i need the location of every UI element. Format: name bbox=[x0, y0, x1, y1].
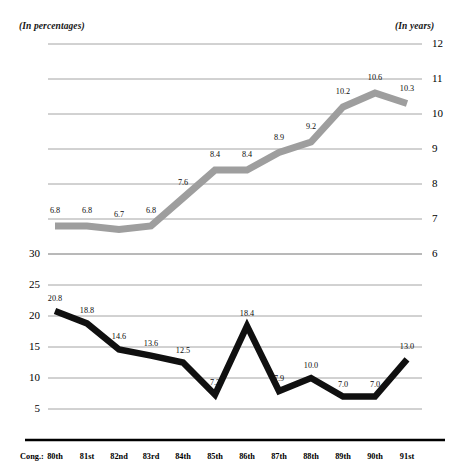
years-series-line bbox=[55, 93, 407, 230]
x-tick-90th: 90th bbox=[367, 452, 383, 461]
data-label-years-88th: 9.2 bbox=[306, 123, 316, 131]
data-label-percent-90th: 7.0 bbox=[370, 381, 380, 389]
chart-figure: (In percentages) (In years) 1211109876 3… bbox=[0, 0, 462, 469]
x-tick-81st: 81st bbox=[80, 452, 94, 461]
left-axis-tick-5: 5 bbox=[14, 403, 40, 414]
data-label-percent-81st: 18.8 bbox=[80, 307, 94, 315]
lower-gridlines bbox=[48, 254, 422, 409]
data-label-percent-84th: 12.5 bbox=[176, 347, 190, 355]
x-tick-89th: 89th bbox=[335, 452, 351, 461]
data-label-years-87th: 8.9 bbox=[274, 134, 284, 142]
data-label-percent-83rd: 13.6 bbox=[144, 340, 158, 348]
percentages-series-line bbox=[55, 311, 407, 397]
right-axis-tick-11: 11 bbox=[432, 73, 443, 84]
left-axis-tick-10: 10 bbox=[14, 372, 40, 383]
x-tick-86th: 86th bbox=[239, 452, 255, 461]
data-label-years-89th: 10.2 bbox=[336, 88, 350, 96]
x-tick-82nd: 82nd bbox=[110, 452, 128, 461]
right-axis-tick-12: 12 bbox=[432, 38, 443, 49]
x-tick-85th: 85th bbox=[207, 452, 223, 461]
data-label-years-83rd: 6.8 bbox=[146, 207, 156, 215]
right-axis-tick-10: 10 bbox=[432, 108, 443, 119]
right-axis-tick-9: 9 bbox=[432, 143, 438, 154]
data-label-percent-89th: 7.0 bbox=[338, 381, 348, 389]
x-tick-84th: 84th bbox=[175, 452, 191, 461]
x-axis-prefix-label: Cong.: bbox=[20, 452, 44, 461]
right-axis-tick-7: 7 bbox=[432, 213, 438, 224]
x-tick-88th: 88th bbox=[303, 452, 319, 461]
data-label-percent-87th: 7.9 bbox=[274, 375, 284, 383]
data-label-years-91st: 10.3 bbox=[400, 85, 414, 93]
x-tick-91st: 91st bbox=[400, 452, 414, 461]
data-label-years-84th: 7.6 bbox=[178, 179, 188, 187]
left-axis-tick-25: 25 bbox=[14, 279, 40, 290]
data-label-percent-80th: 20.8 bbox=[48, 295, 62, 303]
data-label-years-82nd: 6.7 bbox=[114, 211, 124, 219]
data-label-years-81st: 6.8 bbox=[82, 207, 92, 215]
left-axis-tick-20: 20 bbox=[14, 310, 40, 321]
left-axis-tick-15: 15 bbox=[14, 341, 40, 352]
data-label-percent-86th: 18.4 bbox=[240, 310, 254, 318]
right-axis-tick-8: 8 bbox=[432, 178, 438, 189]
chart-canvas bbox=[0, 0, 462, 469]
x-tick-87th: 87th bbox=[271, 452, 287, 461]
data-label-percent-85th: 7.3 bbox=[210, 379, 220, 387]
data-label-percent-91st: 13.0 bbox=[400, 343, 414, 351]
data-label-percent-82nd: 14.6 bbox=[112, 333, 126, 341]
data-label-years-86th: 8.4 bbox=[242, 151, 252, 159]
x-tick-83rd: 83rd bbox=[143, 452, 160, 461]
data-label-percent-88th: 10.0 bbox=[304, 362, 318, 370]
data-label-years-90th: 10.6 bbox=[368, 74, 382, 82]
data-label-years-80th: 6.8 bbox=[50, 207, 60, 215]
upper-gridlines bbox=[48, 44, 422, 254]
right-axis-tick-6: 6 bbox=[432, 248, 438, 259]
left-axis-tick-30: 30 bbox=[14, 248, 40, 259]
x-tick-80th: 80th bbox=[47, 452, 63, 461]
data-label-years-85th: 8.4 bbox=[210, 151, 220, 159]
